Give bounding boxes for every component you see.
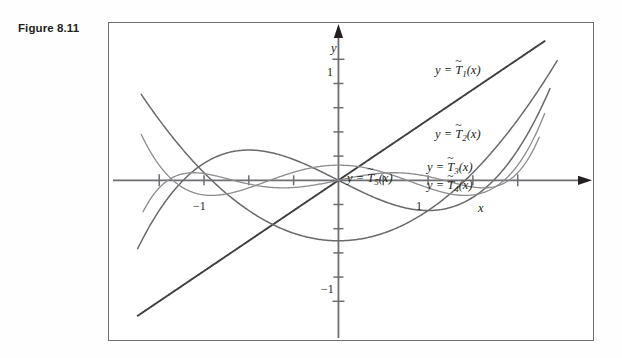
- curve-label-t5: y = T~5(x): [347, 171, 393, 187]
- y-axis-label: y: [331, 41, 337, 56]
- y-tick-label-neg1: −1: [321, 282, 334, 297]
- x-tick-label-neg1: −1: [193, 199, 206, 214]
- curve-label-t2: y = T~2(x): [435, 127, 481, 143]
- curve-label-t4: y = T~4(x): [427, 178, 473, 194]
- figure-caption: Figure 8.11: [18, 22, 98, 34]
- figure-frame: y = T~1(x) y = T~2(x) y = T~3(x) y = T~4…: [108, 22, 594, 341]
- x-axis-label: x: [478, 201, 484, 216]
- x-tick-label-pos1: 1: [416, 199, 422, 214]
- y-tick-label-pos1: 1: [327, 65, 333, 80]
- figure-page: Figure 8.11 y = T~1(x) y = T~2(x) y = T~…: [0, 0, 622, 358]
- curve-label-t1: y = T~1(x): [435, 63, 481, 79]
